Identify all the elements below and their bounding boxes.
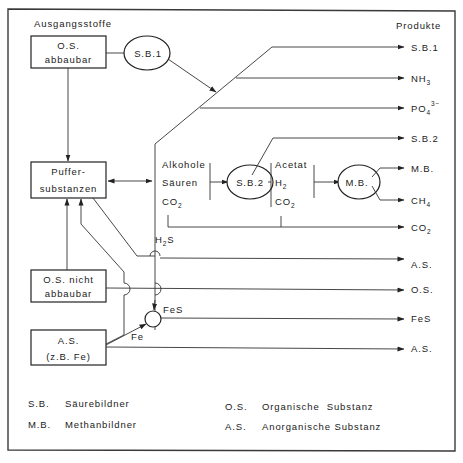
legend: S.B. Säurebildner M.B. Methanbildner O.S… [28, 398, 381, 432]
svg-text:Puffer-: Puffer- [51, 166, 86, 177]
product-mb: M.B. [411, 163, 434, 174]
svg-text:Säuren: Säuren [162, 177, 198, 188]
organism-mb: M.B. [338, 165, 380, 199]
legend-abbr-os: O.S. [225, 401, 248, 412]
box-os-degradable: O.S. abbaubar [31, 36, 106, 68]
product-as-1: A.S. [411, 259, 433, 270]
header-inputs: Ausgangsstoffe [34, 18, 112, 29]
svg-text:abbaubar: abbaubar [45, 288, 92, 299]
legend-text-sb: Säurebildner [65, 398, 130, 409]
svg-text:CO2: CO2 [162, 196, 183, 209]
organism-sb2: S.B.2 [227, 165, 273, 199]
svg-text:O.S. nicht: O.S. nicht [43, 274, 94, 285]
svg-text:S.B.1: S.B.1 [134, 48, 162, 59]
arrow-as-1 [160, 258, 404, 259]
intermediates-group2: Acetat H2 CO2 [275, 159, 307, 209]
svg-text:A.S.: A.S. [58, 335, 80, 346]
svg-text:substanzen: substanzen [40, 183, 98, 194]
svg-text:H2: H2 [275, 177, 287, 190]
svg-text:Acetat: Acetat [275, 159, 307, 170]
legend-text-as: Anorganische Substanz [262, 421, 381, 432]
legend-abbr-as: A.S. [225, 421, 247, 432]
product-co2: CO2 [411, 222, 432, 235]
arrow-sb1-to-split [168, 59, 216, 92]
product-sb2: S.B.2 [411, 133, 439, 144]
product-sb1: S.B.1 [411, 42, 439, 53]
box-os-nondegradable: O.S. nicht abbaubar [31, 270, 106, 302]
box-buffer: Puffer- substanzen [31, 162, 106, 198]
svg-text:(z.B. Fe): (z.B. Fe) [46, 351, 91, 362]
svg-text:CO2: CO2 [275, 196, 296, 209]
legend-text-mb: Methanbildner [65, 419, 137, 430]
svg-text:abbaubar: abbaubar [45, 54, 92, 65]
label-h2s: H2S [155, 234, 175, 247]
product-as-2: A.S. [411, 343, 433, 354]
arrow-as-2 [106, 347, 404, 349]
arrow-co2 [168, 215, 404, 227]
organism-sb1: S.B.1 [124, 36, 170, 70]
node-fes [145, 311, 161, 327]
arrow-fes [161, 318, 404, 319]
svg-text:M.B.: M.B. [345, 177, 368, 188]
product-nh3: NH3 [411, 73, 431, 86]
arrow-os [106, 288, 404, 290]
header-outputs: Produkte [396, 20, 441, 31]
legend-text-os: Organische Substanz [262, 401, 373, 412]
anaerobic-digestion-diagram: Ausgangsstoffe Produkte O.S. abbaubar S.… [0, 0, 463, 463]
svg-text:Alkohole: Alkohole [162, 159, 206, 170]
svg-text:O.S.: O.S. [57, 40, 80, 51]
product-fes: FeS [411, 313, 431, 324]
label-fes: FeS [163, 304, 183, 315]
box-inorganic: A.S. (z.B. Fe) [31, 330, 106, 365]
intermediates-group1: Alkohole Säuren CO2 [162, 159, 206, 209]
product-po4: PO43− [411, 100, 440, 116]
legend-abbr-sb: S.B. [28, 398, 50, 409]
label-fe: Fe [131, 331, 144, 342]
svg-text:S.B.2: S.B.2 [236, 177, 264, 188]
product-ch4: CH4 [411, 195, 431, 208]
diagram-frame [8, 9, 455, 451]
legend-abbr-mb: M.B. [28, 419, 51, 430]
product-os: O.S. [411, 284, 434, 295]
